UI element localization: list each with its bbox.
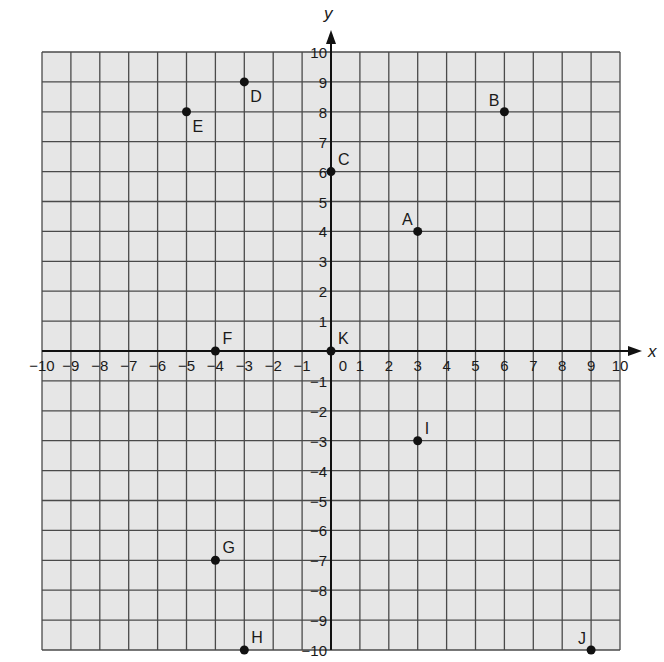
x-tick-label: 1 (356, 357, 364, 374)
point-label-f: F (222, 330, 232, 347)
point-label-c: C (338, 151, 350, 168)
x-tick-label: −5 (178, 357, 195, 374)
point-label-b: B (489, 92, 500, 109)
x-tick-label: 0 (339, 357, 347, 374)
point-marker-c (327, 167, 336, 176)
y-tick-label: 6 (319, 164, 327, 181)
point-marker-k (327, 347, 336, 356)
x-tick-label: −7 (120, 357, 137, 374)
x-tick-label: 2 (385, 357, 393, 374)
y-tick-label: −9 (310, 612, 327, 629)
y-tick-label: −7 (310, 552, 327, 569)
point-label-h: H (251, 629, 263, 646)
point-marker-h (240, 646, 249, 655)
y-tick-label: −6 (310, 522, 327, 539)
point-label-j: J (578, 630, 586, 647)
x-tick-label: −4 (207, 357, 224, 374)
y-tick-label: −3 (310, 433, 327, 450)
y-tick-label: 5 (319, 194, 327, 211)
point-marker-d (240, 77, 249, 86)
coordinate-plane: −10−9−8−7−6−5−4−3−2−1012345678910−10−9−8… (0, 0, 664, 662)
x-tick-label: 5 (471, 357, 479, 374)
x-tick-label: 7 (529, 357, 537, 374)
point-label-k: K (338, 330, 349, 347)
y-tick-label: 1 (319, 313, 327, 330)
y-tick-label: −2 (310, 403, 327, 420)
y-tick-label: 3 (319, 253, 327, 270)
x-tick-label: −9 (62, 357, 79, 374)
x-tick-label: −1 (294, 357, 311, 374)
point-marker-g (211, 556, 220, 565)
point-marker-f (211, 347, 220, 356)
y-tick-label: 10 (310, 44, 327, 61)
x-axis-arrow-icon (628, 346, 642, 356)
y-tick-label: −1 (310, 373, 327, 390)
x-tick-label: −8 (91, 357, 108, 374)
point-label-a: A (402, 211, 413, 228)
point-marker-j (587, 646, 596, 655)
x-axis-label: x (647, 342, 657, 361)
x-tick-label: 4 (442, 357, 450, 374)
x-tick-label: 3 (414, 357, 422, 374)
x-tick-label: −10 (29, 357, 54, 374)
x-tick-label: 6 (500, 357, 508, 374)
point-label-i: I (425, 420, 429, 437)
y-axis-label: y (323, 4, 334, 23)
y-tick-label: −4 (310, 463, 327, 480)
point-marker-e (182, 107, 191, 116)
y-tick-label: 4 (319, 223, 327, 240)
y-tick-label: −8 (310, 582, 327, 599)
x-tick-label: 9 (587, 357, 595, 374)
point-marker-a (413, 227, 422, 236)
x-tick-label: −3 (236, 357, 253, 374)
point-marker-b (500, 107, 509, 116)
y-axis-arrow-icon (326, 30, 336, 44)
point-label-e: E (193, 118, 204, 135)
x-tick-label: 8 (558, 357, 566, 374)
x-tick-label: −2 (265, 357, 282, 374)
x-tick-label: 10 (612, 357, 629, 374)
point-label-d: D (250, 88, 262, 105)
y-tick-label: 2 (319, 283, 327, 300)
y-tick-label: −5 (310, 493, 327, 510)
x-tick-label: −6 (149, 357, 166, 374)
point-label-g: G (222, 539, 234, 556)
y-tick-label: 9 (319, 74, 327, 91)
point-marker-i (413, 436, 422, 445)
y-tick-label: −10 (302, 642, 327, 659)
y-tick-label: 7 (319, 134, 327, 151)
y-tick-label: 8 (319, 104, 327, 121)
